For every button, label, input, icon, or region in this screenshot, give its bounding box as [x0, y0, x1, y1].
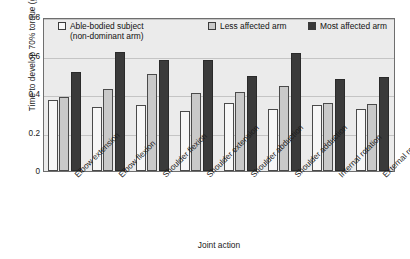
x-tick-label: External rotation — [381, 173, 387, 179]
x-tick-label: Elbow flexion — [117, 173, 123, 179]
bar-chart: Time to develop 70% torque (g) 00.20.40.… — [0, 0, 410, 259]
bar — [379, 77, 389, 171]
y-tick-label: 0 — [35, 168, 40, 176]
bar — [48, 100, 58, 171]
x-axis-title: Joint action — [43, 240, 395, 250]
bar — [191, 93, 201, 171]
bar — [203, 60, 213, 171]
y-tick-label: 0.6 — [29, 53, 40, 61]
x-tick-label: Shoulder adduction — [293, 173, 299, 179]
x-tick-label: Shoulder abduction — [249, 173, 255, 179]
y-tick-label: 0.2 — [29, 130, 40, 138]
bar — [291, 53, 301, 171]
bar — [147, 74, 157, 171]
y-tick-label: 0.8 — [29, 14, 40, 22]
bar — [103, 89, 113, 171]
x-tick-label: Shoulder flexion — [161, 173, 167, 179]
y-tick-label: 0.4 — [29, 91, 40, 99]
bar — [59, 97, 69, 171]
bar — [115, 52, 125, 171]
bar — [71, 72, 81, 171]
bar — [159, 60, 169, 171]
x-tick-label: Shoulder extension — [205, 173, 211, 179]
bar-group — [44, 19, 88, 171]
x-tick-label: Elbow extension — [73, 173, 79, 179]
x-tick-label: Internal rotation — [337, 173, 343, 179]
x-axis-tick-labels: Elbow extensionElbow flexionShoulder fle… — [43, 173, 395, 235]
bar — [279, 86, 289, 171]
y-axis-ticks: 00.20.40.60.8 — [14, 18, 40, 172]
bar — [235, 92, 245, 171]
